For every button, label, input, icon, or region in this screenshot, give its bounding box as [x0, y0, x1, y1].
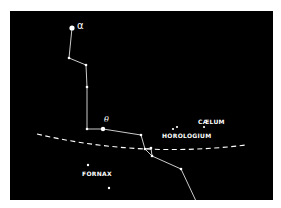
stars	[68, 25, 205, 189]
star-caelum	[203, 126, 205, 128]
fornax-label: FORNAX	[82, 170, 112, 177]
star-theta	[101, 127, 105, 131]
star	[180, 168, 183, 171]
star-chart-drawing	[0, 0, 281, 208]
star	[68, 57, 71, 60]
star-horologium	[176, 126, 178, 128]
star-alpha	[69, 25, 74, 30]
star	[86, 86, 89, 89]
alpha-label: α	[77, 20, 84, 31]
star	[150, 147, 153, 150]
star-fornax	[87, 164, 89, 166]
horologium-label: HOROLOGIUM	[162, 132, 212, 139]
star	[85, 64, 88, 67]
star	[151, 155, 154, 158]
theta-label: θ	[104, 115, 109, 124]
star-horologium	[172, 128, 174, 130]
caelum-label: CÆLUM	[198, 118, 225, 125]
star	[86, 128, 89, 131]
star	[144, 148, 147, 151]
star	[140, 134, 143, 137]
star-fornax	[108, 187, 110, 189]
